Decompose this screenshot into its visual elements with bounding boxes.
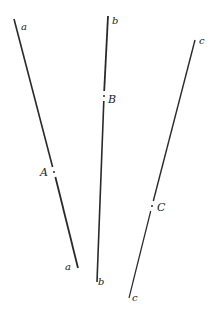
diagram-canvas: a A a b B b c C c: [0, 0, 213, 310]
label-B: B: [107, 93, 116, 106]
line-b: [97, 16, 108, 282]
point-A-marker: [53, 171, 55, 173]
label-a-top: a: [21, 21, 27, 32]
point-C-marker: [151, 205, 153, 207]
label-b-bottom: b: [98, 276, 104, 287]
point-B-marker: [103, 95, 105, 97]
label-a-bottom: a: [65, 261, 71, 272]
diagram-svg: a A a b B b c C c: [0, 0, 213, 310]
line-c: [129, 40, 195, 298]
label-c-bottom: c: [132, 292, 138, 303]
label-b-top: b: [112, 15, 118, 26]
label-c-top: c: [199, 35, 205, 46]
line-a: [14, 19, 78, 268]
label-A: A: [39, 166, 48, 179]
label-C: C: [157, 201, 166, 214]
